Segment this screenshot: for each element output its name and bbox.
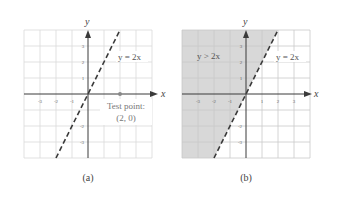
line-label-b: y = 2x <box>276 52 300 62</box>
figure: x y -3 -2 -1 3 2 1 -2 -3 y = 2x Test poi… <box>0 0 340 199</box>
y-axis-arrow-icon <box>85 30 91 38</box>
x-axis-arrow-icon <box>150 91 158 97</box>
y-tick: -2 <box>238 124 243 129</box>
y-axis-label-b: y <box>242 16 248 27</box>
caption-b: (b) <box>240 172 252 183</box>
line-label-a: y = 2x <box>118 52 142 62</box>
caption-a: (a) <box>82 172 93 183</box>
x-axis-label-a: x <box>160 88 166 99</box>
x-tick: -1 <box>70 99 75 104</box>
y-tick: -3 <box>238 140 243 145</box>
y-tick: 3 <box>82 44 85 49</box>
x-tick: -3 <box>38 99 43 104</box>
x-axis-arrow-icon <box>304 91 312 97</box>
test-point-coords: (2, 0) <box>116 113 136 123</box>
test-point-label: Test point: <box>107 101 145 111</box>
region-label: y > 2x <box>197 51 221 61</box>
panel-a: x y -3 -2 -1 3 2 1 -2 -3 y = 2x Test poi… <box>24 16 166 158</box>
x-tick: -2 <box>54 99 59 104</box>
y-tick: -2 <box>80 124 85 129</box>
x-tick: -3 <box>196 99 201 104</box>
x-tick: -1 <box>228 99 233 104</box>
x-axis-label-b: x <box>313 88 319 99</box>
x-tick: 3 <box>293 99 296 104</box>
y-tick: 2 <box>82 60 85 65</box>
x-tick: 2 <box>277 99 280 104</box>
test-point-dot <box>118 92 122 96</box>
panel-b: x y -3 -2 -1 1 2 3 3 2 1 -2 -3 y > 2x y … <box>182 16 319 158</box>
y-tick: 1 <box>82 76 85 81</box>
y-tick: -3 <box>80 140 85 145</box>
x-tick: -2 <box>212 99 217 104</box>
x-tick: 1 <box>261 99 264 104</box>
y-axis-label-a: y <box>84 16 90 27</box>
